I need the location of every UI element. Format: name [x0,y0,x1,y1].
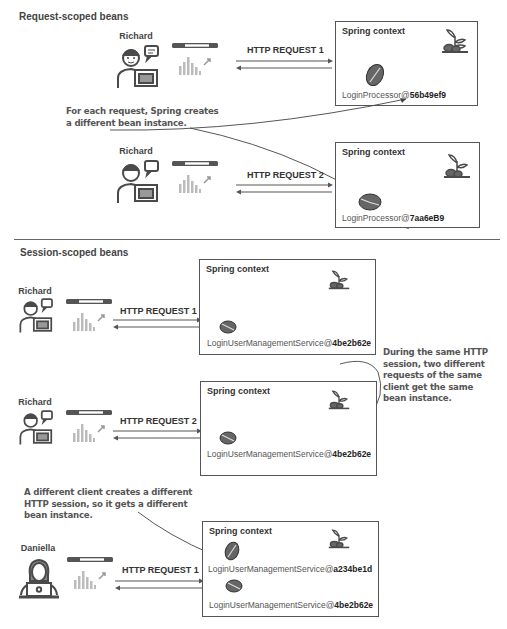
client-name: Richard [106,146,166,156]
different-client-note: A different client creates a different H… [24,487,192,522]
bean-instance-label: LoginUserManagementService@a234be1d [208,564,372,574]
request-label: HTTP REQUEST 2 [120,416,197,426]
spring-context-box: Spring context LoginUserManagementServic… [202,521,379,617]
spring-context-title: Spring context [207,386,270,396]
person-at-laptop-icon [115,157,163,209]
client-name: Daniella [8,543,68,553]
bean-instance-label: LoginProcessor@7aa6eB9 [342,213,444,223]
request-response-arrows [236,182,332,196]
browser-window-icon [67,557,113,595]
request-label: HTTP REQUEST 2 [247,170,324,180]
browser-window-icon [172,161,218,199]
coffee-bean-icon [225,579,243,597]
browser-window-icon [66,410,112,448]
coffee-bean-icon [219,431,237,449]
coffee-plant-icon [328,268,350,294]
browser-window-icon [66,299,112,337]
spring-context-box: Spring context LoginUserManagementServic… [200,381,377,476]
spring-context-box: Spring context LoginUserManagementServic… [199,259,376,355]
same-session-note: During the same HTTP session, two differ… [383,347,488,405]
bean-instance-label: LoginUserManagementService@4be2b62e [209,600,373,610]
spring-context-title: Spring context [342,147,405,157]
coffee-plant-icon [328,527,350,553]
spring-context-box: Spring context LoginProcessor@7aa6eB9 [335,142,480,228]
request-label: HTTP REQUEST 1 [122,565,199,575]
coffee-plant-icon [443,151,471,183]
person-at-laptop-icon [18,296,56,338]
spring-context-title: Spring context [206,264,269,274]
person-at-laptop-icon [16,555,62,605]
request-response-arrows [115,578,205,592]
person-at-laptop-icon [18,408,56,450]
client-name: Richard [5,397,65,407]
coffee-bean-icon [224,541,240,565]
client-name: Richard [5,286,65,296]
coffee-bean-icon [219,320,237,338]
bean-instance-label: LoginUserManagementService@4be2b62e [207,449,371,459]
request-label: HTTP REQUEST 1 [120,306,197,316]
request-response-arrows [113,428,203,442]
request-response-arrows [113,317,203,331]
section-divider [14,239,500,240]
bean-instance-label: LoginUserManagementService@4be2b62e [207,338,371,348]
session-scoped-title: Session-scoped beans [20,247,128,258]
coffee-bean-icon [358,193,382,215]
coffee-plant-icon [328,388,350,414]
spring-context-title: Spring context [209,526,272,536]
